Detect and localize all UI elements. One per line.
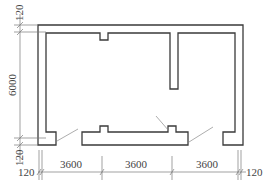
left-dimension: 120 6000 120	[6, 4, 46, 166]
dim-height-label: 6000	[6, 74, 18, 97]
bottom-wall-segment	[82, 126, 188, 145]
door-swing-right	[189, 127, 213, 142]
outer-wall	[38, 25, 243, 145]
dim-bay-3-label: 3600	[196, 158, 219, 170]
door-swing-left	[57, 129, 78, 141]
dim-bay-1-label: 3600	[60, 158, 83, 170]
bottom-dimension: 120 3600 3600 3600 120	[18, 150, 263, 180]
dim-top-wall-label: 120	[13, 4, 25, 21]
dim-left-wall-label: 120	[18, 166, 35, 178]
floor-plan: 120 6000 120 120 3600 3600 3600 120	[0, 0, 271, 196]
dim-bottom-wall-label: 120	[13, 149, 25, 166]
dim-bay-2-label: 3600	[125, 158, 148, 170]
door-swing-middle	[156, 116, 169, 131]
dim-right-wall-label: 120	[246, 166, 263, 178]
